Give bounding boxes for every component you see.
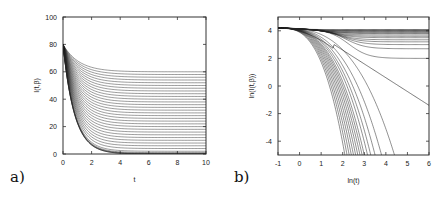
chart-a: 0246810020406080100tI(t,β) a) xyxy=(0,0,230,201)
x-tick-label: 1 xyxy=(319,160,323,167)
x-tick-label: 5 xyxy=(405,160,409,167)
series-line xyxy=(63,44,206,91)
x-tick-label: 6 xyxy=(147,159,151,166)
y-tick-label: 4 xyxy=(268,27,272,34)
y-axis-label: I(t,β) xyxy=(33,78,41,93)
x-tick-label: 3 xyxy=(362,160,366,167)
x-tick-label: 2 xyxy=(90,159,94,166)
y-tick-label: -2 xyxy=(266,110,272,117)
y-tick-label: 40 xyxy=(49,96,57,103)
x-axis-label: t xyxy=(134,176,136,183)
x-axis-label: ln(t) xyxy=(347,177,359,185)
series-line xyxy=(63,44,206,71)
panel-label-a: a) xyxy=(10,168,25,186)
y-tick-label: 80 xyxy=(49,41,57,48)
series-line xyxy=(63,44,206,96)
series-line xyxy=(63,44,206,77)
chart-b: -10123456-4-2024ln(t)ln(I(t,β)) b) xyxy=(230,0,446,201)
y-tick-label: 0 xyxy=(53,151,57,158)
y-tick-label: -4 xyxy=(266,138,272,145)
chart-b-plot: -10123456-4-2024ln(t)ln(I(t,β)) xyxy=(230,0,446,201)
series-line xyxy=(63,44,206,85)
x-tick-label: 6 xyxy=(427,160,431,167)
series-line xyxy=(63,44,206,74)
x-tick-label: 0 xyxy=(61,159,65,166)
series-group xyxy=(278,28,429,194)
x-tick-label: 10 xyxy=(202,159,210,166)
series-line xyxy=(63,44,206,113)
panel-label-b: b) xyxy=(234,168,249,186)
series-line xyxy=(278,28,369,187)
y-tick-label: 60 xyxy=(49,68,57,75)
series-line xyxy=(63,44,206,151)
y-axis-label: ln(I(t,β)) xyxy=(248,74,256,99)
y-tick-label: 20 xyxy=(49,123,57,130)
x-tick-label: 4 xyxy=(118,159,122,166)
y-tick-label: 0 xyxy=(268,83,272,90)
series-line xyxy=(278,28,382,182)
series-line xyxy=(63,44,206,88)
x-tick-label: 2 xyxy=(341,160,345,167)
series-line xyxy=(278,28,351,194)
series-line xyxy=(63,44,206,140)
x-tick-label: 4 xyxy=(384,160,388,167)
x-tick-label: -1 xyxy=(275,160,281,167)
y-tick-label: 100 xyxy=(45,14,57,21)
series-line xyxy=(63,44,206,145)
x-tick-label: 0 xyxy=(298,160,302,167)
series-line xyxy=(278,28,371,185)
y-tick-label: 2 xyxy=(268,55,272,62)
series-group xyxy=(63,44,206,154)
series-line xyxy=(63,44,206,123)
chart-a-plot: 0246810020406080100tI(t,β) xyxy=(0,0,230,201)
x-tick-label: 8 xyxy=(175,159,179,166)
